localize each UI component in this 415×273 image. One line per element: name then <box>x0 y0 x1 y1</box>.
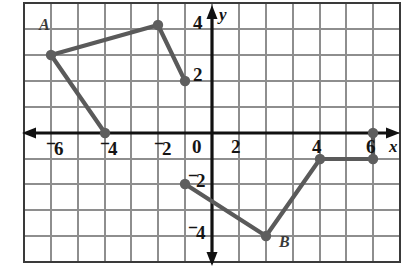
y-axis-name: y <box>219 6 227 23</box>
vertex-point <box>261 231 271 241</box>
x-tick-value: 6 <box>54 138 64 159</box>
vertex-point <box>46 50 56 60</box>
vertex-point <box>153 20 163 30</box>
figure-a-polyline <box>51 25 185 133</box>
x-tick-label-2: 2 <box>231 137 241 156</box>
x-axis-name: x <box>389 138 398 155</box>
y-tick-label-2: 2 <box>193 65 203 84</box>
point-label-b: B <box>279 234 290 250</box>
vertex-point <box>180 76 190 86</box>
x-tick-label-neg4: ⁻4 <box>100 137 118 158</box>
y-axis <box>207 5 218 266</box>
y-tick-label-4: 4 <box>193 13 203 32</box>
y-tick-label-neg4: ⁻4 <box>188 221 206 242</box>
y-axis-top-arrow <box>207 5 218 19</box>
y-tick-value: 2 <box>196 170 206 191</box>
coordinate-plane-figure: ⁻6 ⁻4 ⁻2 0 2 4 6 4 2 ⁻2 ⁻4 y x A B <box>0 0 415 273</box>
y-tick-value: 4 <box>196 222 206 243</box>
y-axis-bottom-arrow <box>207 252 218 266</box>
x-tick-value: 4 <box>108 138 118 159</box>
x-tick-label-neg2: ⁻2 <box>154 137 172 158</box>
x-tick-label-neg6: ⁻6 <box>46 137 64 158</box>
y-tick-label-neg2: ⁻2 <box>188 169 206 190</box>
point-label-a: A <box>39 17 50 33</box>
x-tick-label-4: 4 <box>312 137 322 156</box>
x-tick-label-6: 6 <box>366 137 376 156</box>
x-tick-value: 2 <box>162 138 172 159</box>
x-tick-label-zero: 0 <box>192 137 202 156</box>
